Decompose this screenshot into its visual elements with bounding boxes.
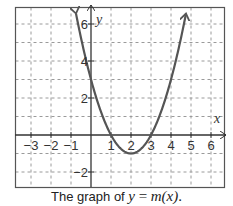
y-tick-label: −2 <box>73 165 88 180</box>
x-tick-label: 1 <box>107 138 114 153</box>
x-tick-label: −1 <box>64 138 79 153</box>
x-tick-label: 5 <box>187 138 194 153</box>
graph-caption: The graph of y = m(x). <box>0 187 233 206</box>
caption-equals: = <box>139 188 147 204</box>
x-tick-label: 6 <box>207 138 214 153</box>
function-graph: −3−2−1123456 −2246 x y <box>0 0 233 190</box>
x-axis-label: x <box>213 111 221 126</box>
x-tick-label: −2 <box>44 138 59 153</box>
grid-lines <box>16 8 225 188</box>
caption-rhs: m(x) <box>151 188 178 204</box>
y-tick-label: 2 <box>81 91 88 106</box>
caption-period: . <box>178 188 182 204</box>
y-tick-labels: −2246 <box>73 17 88 180</box>
y-tick-label: 6 <box>81 17 88 32</box>
y-tick-label: 4 <box>81 54 88 69</box>
x-tick-label: 3 <box>147 138 154 153</box>
x-tick-label: 2 <box>127 138 134 153</box>
x-tick-label: −3 <box>24 138 39 153</box>
y-axis-label: y <box>94 12 103 27</box>
caption-prefix: The graph of <box>51 189 125 204</box>
x-tick-label: 4 <box>167 138 174 153</box>
caption-lhs: y <box>128 188 135 204</box>
